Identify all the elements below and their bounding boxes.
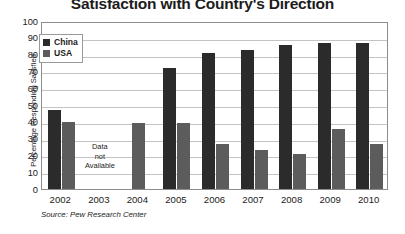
y-axis-tick-label: 0: [14, 186, 38, 195]
legend-item-usa: USA: [43, 48, 78, 59]
bar-usa-2008: [293, 154, 306, 189]
y-axis-tick-label: 20: [14, 152, 38, 161]
bar-china-2007: [241, 50, 254, 189]
chart-legend: ChinaUSA: [39, 34, 83, 63]
legend-item-china: China: [43, 37, 78, 48]
x-axis-tick-label: 2008: [272, 194, 311, 205]
annotation-line: Data: [81, 142, 120, 152]
y-axis-tick-label: 100: [14, 18, 38, 27]
gridline: [42, 40, 387, 41]
plot-area: DatanotAvailable: [41, 22, 388, 190]
bar-usa-2009: [332, 129, 345, 189]
bar-usa-2004: [132, 123, 145, 189]
annotation-line: not: [81, 152, 120, 162]
bar-china-2008: [279, 45, 292, 189]
annotation-line: Available: [81, 161, 120, 171]
legend-swatch-icon: [43, 50, 50, 57]
bar-usa-2005: [177, 123, 190, 189]
x-axis-tick-label: 2003: [80, 194, 119, 205]
y-axis-tick-label: 90: [14, 34, 38, 43]
legend-swatch-icon: [43, 39, 50, 46]
legend-label: China: [54, 38, 78, 47]
bar-usa-2007: [255, 150, 268, 189]
x-axis-tick-label: 2004: [118, 194, 157, 205]
bar-china-2010: [356, 43, 369, 189]
bar-china-2009: [318, 43, 331, 189]
data-not-available-note: DatanotAvailable: [81, 142, 120, 171]
bar-usa-2006: [216, 144, 229, 189]
bar-china-2006: [202, 53, 215, 189]
y-axis-tick-label: 80: [14, 51, 38, 60]
bar-china-2005: [163, 68, 176, 189]
x-axis-tick-label: 2006: [195, 194, 234, 205]
chart-title: Satisfaction with Country's Direction: [0, 0, 405, 13]
y-axis-tick-label: 60: [14, 85, 38, 94]
bar-usa-2010: [370, 144, 383, 189]
bar-china-2002: [48, 110, 61, 189]
x-axis-tick-label: 2010: [349, 194, 388, 205]
y-axis-tick-label: 50: [14, 102, 38, 111]
source-note: Source: Pew Research Center: [41, 210, 146, 219]
y-axis-tick-label: 10: [14, 169, 38, 178]
y-axis-tick-label: 30: [14, 135, 38, 144]
y-axis-tick-label: 70: [14, 68, 38, 77]
bar-chart: Satisfaction with Country's Direction Pe…: [0, 0, 405, 234]
bar-usa-2002: [62, 122, 75, 189]
y-axis-tick-label: 40: [14, 118, 38, 127]
x-axis-tick-label: 2002: [41, 194, 80, 205]
x-axis-tick-label: 2007: [234, 194, 273, 205]
x-axis-tick-label: 2005: [157, 194, 196, 205]
x-axis-tick-label: 2009: [311, 194, 350, 205]
legend-label: USA: [54, 49, 72, 58]
